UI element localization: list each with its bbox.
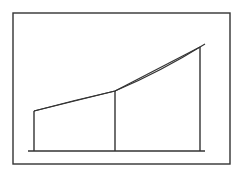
ordinate-lines	[34, 47, 200, 151]
function-curve	[34, 44, 205, 111]
trapezoid-diagram	[0, 0, 241, 176]
trapezoid-chords	[34, 47, 200, 111]
chord-2	[115, 47, 200, 91]
